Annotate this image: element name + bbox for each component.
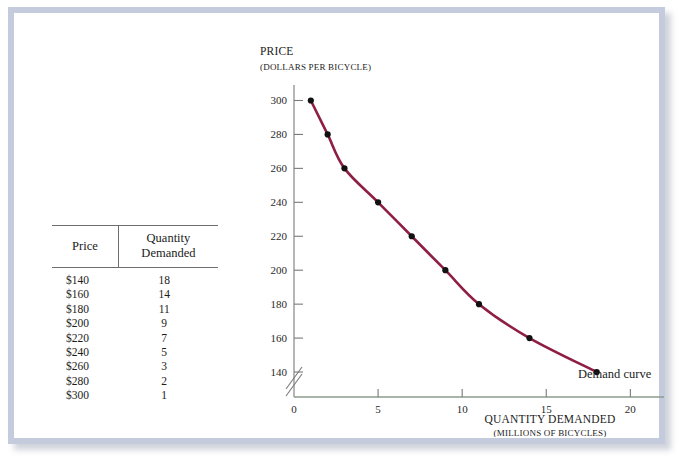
y-tick-label: 140 — [271, 366, 288, 378]
y-tick-label: 260 — [271, 162, 288, 174]
data-point — [375, 199, 381, 205]
cell-price: $160 — [52, 287, 118, 301]
x-axis-title-main: QUANTITY DEMANDED — [484, 413, 615, 425]
column-header-quantity: Quantity Demanded — [118, 226, 218, 268]
cell-price: $300 — [52, 388, 118, 402]
y-tick-label: 180 — [271, 298, 288, 310]
table-row: $14018 — [52, 268, 218, 288]
y-tick-label: 160 — [271, 332, 288, 344]
data-point — [341, 165, 347, 171]
demand-curve-line — [311, 100, 597, 372]
x-tick-label: 10 — [457, 403, 469, 415]
data-point — [442, 267, 448, 273]
table-row: $2603 — [52, 359, 218, 373]
cell-quantity: 11 — [118, 302, 218, 316]
demand-curve-chart: PRICE (DOLLARS PER BICYCLE) 140160180200… — [250, 37, 670, 437]
column-header-price: Price — [52, 226, 118, 268]
table-row: $2009 — [52, 316, 218, 330]
data-point — [476, 301, 482, 307]
table-body: $14018$16014$18011$2009$2207$2405$2603$2… — [52, 268, 218, 403]
demand-curve-label: Demand curve — [578, 367, 652, 381]
figure-canvas: Price Quantity Demanded $14018$16014$180… — [14, 13, 659, 438]
x-tick-label: 0 — [291, 403, 297, 415]
data-point — [526, 335, 532, 341]
table-row: $2802 — [52, 373, 218, 387]
cell-quantity: 5 — [118, 345, 218, 359]
cell-quantity: 1 — [118, 388, 218, 402]
table-row: $3001 — [52, 388, 218, 402]
figure-frame: Price Quantity Demanded $14018$16014$180… — [8, 7, 665, 444]
y-axis-ticks: 140160180200220240260280300 — [271, 94, 304, 378]
data-point — [325, 131, 331, 137]
cell-price: $260 — [52, 359, 118, 373]
y-axis-title-main: PRICE — [260, 45, 294, 57]
cell-price: $140 — [52, 268, 118, 288]
table-row: $2405 — [52, 345, 218, 359]
data-point — [308, 97, 314, 103]
table-header-row: Price Quantity Demanded — [52, 226, 218, 268]
y-tick-label: 220 — [271, 230, 288, 242]
y-tick-label: 280 — [271, 128, 288, 140]
cell-price: $240 — [52, 345, 118, 359]
y-axis-title-sub: (DOLLARS PER BICYCLE) — [260, 62, 371, 72]
y-tick-label: 300 — [271, 94, 288, 106]
cell-quantity: 18 — [118, 268, 218, 288]
cell-quantity: 2 — [118, 373, 218, 387]
data-point — [409, 233, 415, 239]
x-axis-ticks: 05101520 — [291, 389, 636, 415]
cell-quantity: 9 — [118, 316, 218, 330]
x-axis-title-sub: (MILLIONS OF BICYCLES) — [494, 428, 607, 437]
chart-svg: PRICE (DOLLARS PER BICYCLE) 140160180200… — [250, 37, 670, 437]
x-tick-label: 20 — [625, 403, 637, 415]
demand-schedule-table: Price Quantity Demanded $14018$16014$180… — [52, 225, 218, 402]
table-row: $18011 — [52, 302, 218, 316]
cell-quantity: 3 — [118, 359, 218, 373]
cell-price: $200 — [52, 316, 118, 330]
cell-price: $180 — [52, 302, 118, 316]
cell-quantity: 14 — [118, 287, 218, 301]
y-tick-label: 240 — [271, 196, 288, 208]
y-tick-label: 200 — [271, 264, 288, 276]
cell-price: $280 — [52, 373, 118, 387]
x-tick-label: 5 — [375, 403, 381, 415]
data-point-markers — [308, 97, 600, 375]
table-row: $16014 — [52, 287, 218, 301]
cell-price: $220 — [52, 330, 118, 344]
cell-quantity: 7 — [118, 330, 218, 344]
table-row: $2207 — [52, 330, 218, 344]
